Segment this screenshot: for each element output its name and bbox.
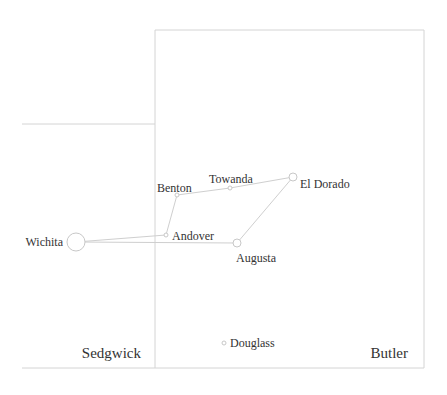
city-label: Wichita <box>26 235 64 249</box>
road-wichita-andover <box>76 235 166 242</box>
city-benton[interactable]: Benton <box>157 181 192 197</box>
city-marker-icon[interactable] <box>233 239 241 247</box>
county-label-butler: Butler <box>371 345 409 361</box>
city-marker-icon[interactable] <box>222 341 226 345</box>
city-el-dorado[interactable]: El Dorado <box>289 173 350 191</box>
city-wichita[interactable]: Wichita <box>26 233 86 251</box>
cities: WichitaAndoverAugustaBentonTowandaEl Dor… <box>26 172 350 350</box>
city-andover[interactable]: Andover <box>164 229 214 243</box>
city-douglass[interactable]: Douglass <box>222 336 275 350</box>
city-label: El Dorado <box>300 177 350 191</box>
city-label: Towanda <box>209 172 253 186</box>
city-marker-icon[interactable] <box>228 186 232 190</box>
city-label: Andover <box>172 229 214 243</box>
county-map: WichitaAndoverAugustaBentonTowandaEl Dor… <box>0 0 447 395</box>
city-towanda[interactable]: Towanda <box>209 172 253 190</box>
road-el-dorado-augusta <box>237 177 293 243</box>
county-borders <box>22 30 424 368</box>
city-marker-icon[interactable] <box>67 233 85 251</box>
butler-county-border <box>155 30 424 368</box>
county-label-sedgwick: Sedgwick <box>82 345 142 361</box>
city-augusta[interactable]: Augusta <box>233 239 277 265</box>
city-label: Douglass <box>230 336 275 350</box>
city-marker-icon[interactable] <box>289 173 297 181</box>
city-marker-icon[interactable] <box>164 233 168 237</box>
city-label: Augusta <box>236 251 277 265</box>
city-label: Benton <box>157 181 192 195</box>
